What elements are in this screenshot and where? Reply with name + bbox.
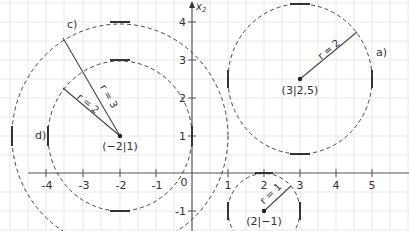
svg-text:4: 4 [333, 179, 340, 192]
radius-line-c [63, 38, 120, 136]
circle-label-c: c) [67, 18, 77, 31]
svg-text:-3: -3 [79, 179, 90, 192]
center-point-cd [118, 134, 122, 138]
svg-text:-2: -2 [116, 179, 127, 192]
svg-text:5: 5 [369, 179, 376, 192]
svg-text:-4: -4 [42, 179, 53, 192]
center-label-b: (2|−1) [246, 215, 282, 228]
x-tick-labels: -4 -3 -2 -1 1 2 3 4 5 [42, 179, 376, 192]
svg-text:4: 4 [179, 16, 186, 29]
svg-text:-1: -1 [152, 179, 163, 192]
svg-text:3: 3 [179, 54, 186, 67]
origin-label: 0 [181, 176, 188, 189]
center-label-cd: (−2|1) [102, 140, 138, 153]
circle-label-d: d) [35, 129, 46, 142]
svg-text:1: 1 [179, 130, 186, 143]
center-point-a [298, 77, 302, 81]
svg-text:-1: -1 [175, 205, 186, 218]
grid [0, 0, 409, 231]
circle-label-a: a) [376, 46, 387, 59]
y-axis-arrow-icon [189, 1, 195, 8]
center-point-b [262, 209, 266, 213]
svg-text:3: 3 [297, 179, 304, 192]
radius-label-d: r = 2 [75, 91, 101, 116]
center-label-a: (3|2,5) [282, 84, 319, 97]
coordinate-plot: x2 -4 -3 -2 -1 1 2 3 4 5 0 4 3 2 1 -1 [0, 0, 409, 231]
svg-text:1: 1 [225, 179, 232, 192]
